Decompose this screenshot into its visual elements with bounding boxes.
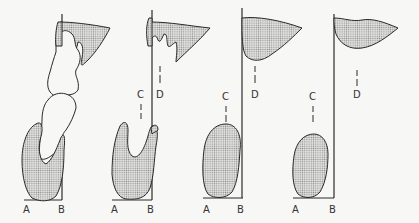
label-a: A [111, 205, 118, 215]
panel-4 [293, 14, 398, 198]
label-b: B [329, 205, 336, 215]
label-a: A [292, 205, 299, 215]
label-b: B [147, 205, 154, 215]
panel-1 [22, 14, 110, 201]
label-c: C [137, 90, 144, 100]
label-a: A [203, 205, 210, 215]
diagram-canvas [0, 0, 419, 223]
label-d: D [156, 90, 164, 100]
label-b: B [237, 205, 244, 215]
label-c: C [309, 92, 316, 102]
label-b: B [58, 205, 65, 215]
tooth-eruption-diagram: A B A B C D A B C D A B C D [0, 0, 419, 223]
panel-3 [203, 8, 302, 198]
panel-2 [112, 10, 210, 200]
label-d: D [353, 90, 361, 100]
label-d: D [251, 90, 259, 100]
label-c: C [222, 92, 229, 102]
label-a: A [23, 205, 30, 215]
